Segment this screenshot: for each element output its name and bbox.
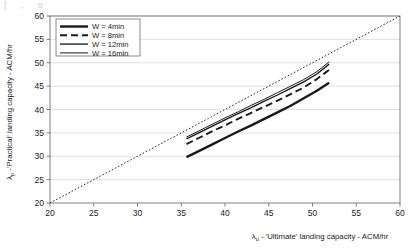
x-tick-label: 45 [264,208,274,218]
x-tick-label: 30 [133,208,143,218]
x-axis-title: λu - 'Ultimate' landing capacity - ACM/h… [252,232,389,242]
svg-text:λp -'Practical' landing capaci: λp -'Practical' landing capacity - ACM/h… [5,44,15,180]
x-tick-label: 40 [220,208,230,218]
chart-legend: W = 4minW = 8minW = 12minW = 16min [56,19,140,58]
y-tick-label: 40 [35,105,45,115]
y-tick-label: 45 [35,81,45,91]
x-tick-label: 55 [352,208,362,218]
y-tick-label: 50 [35,58,45,68]
x-tick-label: 25 [89,208,99,218]
chart-figure: | , o 202530354045505560 202530354045505… [0,0,414,248]
y-axis-title: λp -'Practical' landing capacity - ACM/h… [5,44,15,180]
y-axis-tick-labels: 202530354045505560 [35,11,45,208]
legend-label-4: W = 16min [92,49,129,58]
x-tick-label: 20 [45,208,55,218]
y-tick-label: 30 [35,151,45,161]
y-tick-label: 20 [35,198,45,208]
y-tick-label: 35 [35,128,45,138]
x-tick-label: 35 [177,208,187,218]
legend-label-3: W = 12min [92,40,129,49]
x-tick-label: 60 [395,208,405,218]
svg-text:λu - 'Ultimate' landing capaci: λu - 'Ultimate' landing capacity - ACM/h… [252,232,389,242]
page-scan-artifact: | , o [0,0,414,13]
landing-capacity-line-chart: 202530354045505560 202530354045505560 λu… [0,0,414,248]
legend-label-2: W = 8min [92,31,124,40]
legend-label-1: W = 4min [92,22,124,31]
y-tick-label: 55 [35,34,45,44]
y-tick-label: 25 [35,175,45,185]
x-tick-label: 50 [308,208,318,218]
